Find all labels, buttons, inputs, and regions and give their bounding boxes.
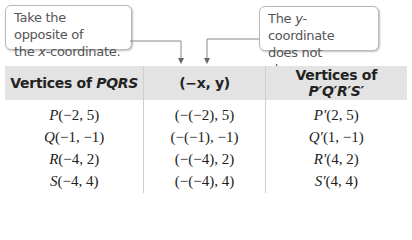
header-original-vertices: Vertices of PQRS (5, 66, 144, 100)
reflection-table: Vertices of PQRS (−x, y) Vertices of P′Q… (5, 66, 407, 193)
header-image-vertices: Vertices of P′Q′R′S′ (265, 66, 407, 100)
table-row: R(−4, 2) (−(−4), 2) R′(4, 2) (5, 148, 407, 170)
image-vertex: P′(2, 5) (265, 100, 407, 126)
rule-applied: (−(−2), 5) (144, 100, 265, 126)
table-row: S(−4, 4) (−(−4), 4) S′(4, 4) (5, 170, 407, 193)
original-vertex: P(−2, 5) (5, 100, 144, 126)
original-vertex: R(−4, 2) (5, 148, 144, 170)
rule-applied: (−(−1), −1) (144, 126, 265, 148)
table-row: P(−2, 5) (−(−2), 5) P′(2, 5) (5, 100, 407, 126)
image-vertex: S′(4, 4) (265, 170, 407, 193)
original-vertex: S(−4, 4) (5, 170, 144, 193)
rule-applied: (−(−4), 4) (144, 170, 265, 193)
table-row: Q(−1, −1) (−(−1), −1) Q′(1, −1) (5, 126, 407, 148)
image-vertex: Q′(1, −1) (265, 126, 407, 148)
original-vertex: Q(−1, −1) (5, 126, 144, 148)
rule-applied: (−(−4), 2) (144, 148, 265, 170)
header-rule: (−x, y) (144, 66, 265, 100)
image-vertex: R′(4, 2) (265, 148, 407, 170)
header-row: Vertices of PQRS (−x, y) Vertices of P′Q… (5, 66, 407, 100)
